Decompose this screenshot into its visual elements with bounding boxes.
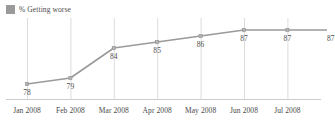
data-point-marker[interactable] <box>286 28 289 31</box>
data-point-marker[interactable] <box>242 28 245 31</box>
data-point-label: 78 <box>23 88 31 97</box>
data-point-marker[interactable] <box>69 76 72 79</box>
chart-legend: % Getting worse <box>6 3 71 15</box>
data-point-marker[interactable] <box>112 46 115 49</box>
data-point-marker[interactable] <box>199 34 202 37</box>
legend-swatch-icon <box>6 5 15 14</box>
data-point-label: 85 <box>153 46 161 55</box>
x-axis-tick-label: Jun 2008 <box>230 106 258 115</box>
plot-area: 7879848586878787 <box>0 18 327 102</box>
data-point-label: 87 <box>327 34 335 43</box>
legend-item-label: % Getting worse <box>19 5 71 14</box>
x-axis-tick-label: Jan 2008 <box>13 106 41 115</box>
x-axis-tick-label: Apr 2008 <box>143 106 172 115</box>
data-point-label: 84 <box>110 52 118 61</box>
data-point-label: 87 <box>240 34 248 43</box>
plot-svg <box>0 18 327 102</box>
data-point-label: 79 <box>67 82 75 91</box>
data-point-marker[interactable] <box>156 40 159 43</box>
x-axis-tick-label: Feb 2008 <box>56 106 85 115</box>
series-line-getting-worse <box>27 30 327 84</box>
data-point-marker[interactable] <box>25 82 28 85</box>
data-point-label: 87 <box>284 34 292 43</box>
x-axis-tick-label: Jul 2008 <box>274 106 300 115</box>
data-point-label: 86 <box>197 40 205 49</box>
x-axis-labels: Jan 2008Feb 2008Mar 2008Apr 2008May 2008… <box>0 104 327 120</box>
x-axis-tick-label: May 2008 <box>185 106 216 115</box>
x-axis-tick-label: Mar 2008 <box>99 106 129 115</box>
